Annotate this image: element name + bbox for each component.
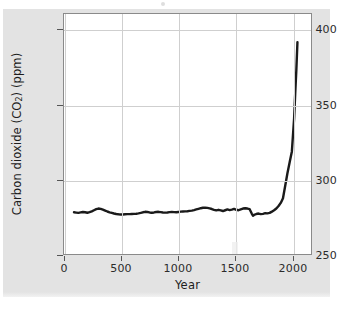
y-tick-mark-250 [57,255,63,256]
x-tick-label-1500: 1500 [221,262,250,275]
x-tick-mark-2000 [293,256,294,261]
x-tick-label-0: 0 [60,262,67,275]
gridline-y-300 [64,181,311,182]
figure-paper-fade [3,292,330,297]
co2-line-series [64,14,311,254]
y-axis-label-subscript: 2 [15,96,24,101]
x-tick-mark-500 [121,256,122,261]
gridline-x-0 [65,14,66,254]
x-tick-mark-0 [64,256,65,261]
gridline-y-350 [64,106,311,107]
figure-root: Carbon dioxide (CO2) (ppm) 400 350 300 2… [0,0,337,311]
gridline-x-1500 [236,14,237,254]
gridline-x-2000 [294,14,295,254]
y-axis-label-wrap: Carbon dioxide (CO2) (ppm) [8,13,26,255]
gridline-y-400 [64,30,311,31]
x-tick-label-1000: 1000 [164,262,193,275]
y-axis-label-suffix: ) (ppm) [10,53,24,97]
y-axis-label: Carbon dioxide (CO2) (ppm) [10,53,24,216]
gridline-x-1000 [179,14,180,254]
x-axis-label: Year [63,278,312,292]
plot-inner [64,14,311,254]
y-axis-label-prefix: Carbon dioxide (CO [10,102,24,216]
plot-area [63,13,312,255]
scan-speck-artifact [161,2,165,6]
gridline-x-500 [122,14,123,254]
x-tick-label-2000: 2000 [279,262,308,275]
scan-smudge-artifact [232,242,238,254]
x-tick-mark-1000 [178,256,179,261]
x-tick-label-500: 500 [110,262,132,275]
x-tick-mark-1500 [235,256,236,261]
